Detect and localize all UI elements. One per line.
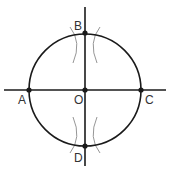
point-a-label: A <box>18 93 26 107</box>
point-o-label: O <box>74 93 83 107</box>
point-b-label: B <box>74 19 82 33</box>
point-d-label: D <box>74 151 83 165</box>
point-b-dot <box>82 30 87 35</box>
point-o-dot <box>82 87 87 92</box>
point-c-dot <box>138 87 143 92</box>
point-c-label: C <box>145 93 154 107</box>
point-d-dot <box>82 143 87 148</box>
point-a-dot <box>26 87 31 92</box>
circle-construction-diagram: AOCBD <box>0 0 171 171</box>
